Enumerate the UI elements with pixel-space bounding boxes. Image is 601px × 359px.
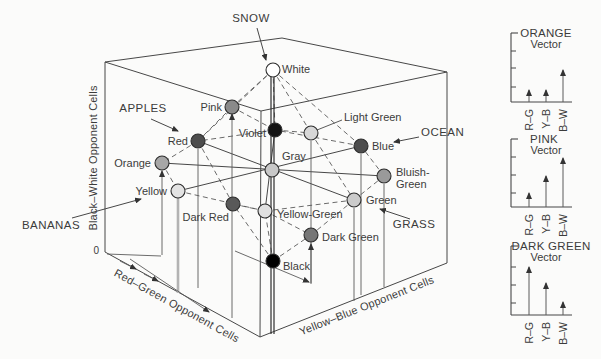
node-label2-bluish_green: Green — [396, 178, 427, 190]
panel-subtitle-0: Vector — [530, 38, 562, 50]
node-label-dark_green: Dark Green — [322, 231, 379, 243]
node-label-green: Green — [366, 194, 397, 206]
panel-bar-label-1-0: R–G — [523, 214, 535, 236]
node-light_green — [304, 126, 318, 140]
panel-bar-label-1-1: Y–B — [540, 214, 552, 234]
node-dark_red — [226, 197, 240, 211]
panel-subtitle-1: Vector — [530, 144, 562, 156]
node-label-gray: Gray — [282, 150, 306, 162]
panel-bar-label-2-1: Y–B — [540, 322, 552, 342]
node-label-light_green: Light Green — [344, 111, 401, 123]
node-pink — [225, 100, 239, 114]
callout-label-bananas: BANANAS — [22, 219, 80, 231]
node-yellow — [171, 184, 185, 198]
node-violet — [268, 123, 282, 137]
node-black — [266, 254, 280, 268]
callout-label-apples: APPLES — [119, 102, 166, 114]
node-gray — [265, 163, 279, 177]
axis-origin-zero: 0 — [93, 245, 99, 256]
node-bluish_green — [377, 169, 391, 183]
axis-label-black-white: Black–White Opponent Cells — [87, 85, 99, 231]
node-label-white: White — [282, 63, 310, 75]
diagram-canvas: WhitePinkVioletLight GreenRedBlueOrangeG… — [0, 0, 601, 359]
node-label-bluish_green: Bluish- — [396, 166, 430, 178]
node-dark_green — [304, 228, 318, 242]
callout-label-grass: GRASS — [393, 218, 436, 230]
panel-bar-label-0-1: Y–B — [540, 109, 552, 129]
node-label-black: Black — [283, 260, 310, 272]
node-label-blue: Blue — [372, 140, 394, 152]
node-white — [266, 63, 280, 77]
callout-label-snow: SNOW — [232, 12, 270, 24]
node-label-dark_red: Dark Red — [183, 211, 229, 223]
node-label-pink: Pink — [201, 101, 223, 113]
node-orange — [155, 156, 169, 170]
panel-bar-label-0-2: B–W — [557, 109, 569, 132]
node-red — [191, 134, 205, 148]
callout-label-ocean: OCEAN — [421, 126, 464, 138]
node-label-red: Red — [168, 135, 188, 147]
node-blue — [354, 139, 368, 153]
node-label-violet: Violet — [239, 127, 266, 139]
node-label-yellow_green: Yellow-Green — [277, 208, 343, 220]
opponent-color-space-figure: WhitePinkVioletLight GreenRedBlueOrangeG… — [0, 0, 601, 359]
panel-bar-label-2-0: R–G — [523, 322, 535, 344]
node-yellow_green — [258, 204, 272, 218]
panel-bar-label-1-2: B–W — [557, 214, 569, 237]
node-green — [347, 193, 361, 207]
panel-bar-label-0-0: R–G — [523, 109, 535, 131]
panel-bar-label-2-2: B–W — [557, 322, 569, 345]
node-label-yellow: Yellow — [136, 185, 167, 197]
node-label-orange: Orange — [114, 157, 151, 169]
panel-subtitle-2: Vector — [530, 251, 562, 263]
